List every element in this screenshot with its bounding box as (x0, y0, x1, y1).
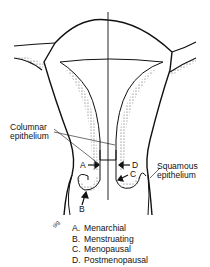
legend-text: Postmenopausal (84, 255, 148, 266)
marker-a: A (80, 161, 86, 170)
squamous-line-2: epithelium (157, 171, 198, 180)
marker-b: B (79, 205, 85, 214)
squamous-epithelium-label: Squamous epithelium (157, 162, 198, 180)
columnar-line-2: epithelium (10, 132, 49, 141)
columnar-epithelium-label: Columnar epithelium (10, 123, 49, 141)
legend-item-d: D.Postmenopausal (72, 255, 148, 266)
legend-key: B. (72, 234, 84, 245)
legend-text: Menarchial (84, 223, 126, 234)
legend-item-a: A.Menarchial (72, 223, 148, 234)
marker-c: C (130, 170, 136, 179)
right-tube (172, 42, 196, 52)
legend-text: Menopausal (84, 244, 131, 255)
legend: A.Menarchial B.Menstruating C.Menopausal… (72, 223, 148, 265)
left-tube (14, 43, 55, 46)
legend-item-b: B.Menstruating (72, 234, 148, 245)
legend-key: D. (72, 255, 84, 266)
legend-text: Menstruating (84, 234, 134, 245)
marker-d: D (132, 161, 138, 170)
legend-key: C. (72, 244, 84, 255)
columnar-leader-2 (54, 132, 115, 145)
arrow-c (118, 175, 128, 181)
legend-item-c: C.Menopausal (72, 244, 148, 255)
legend-key: A. (72, 223, 84, 234)
